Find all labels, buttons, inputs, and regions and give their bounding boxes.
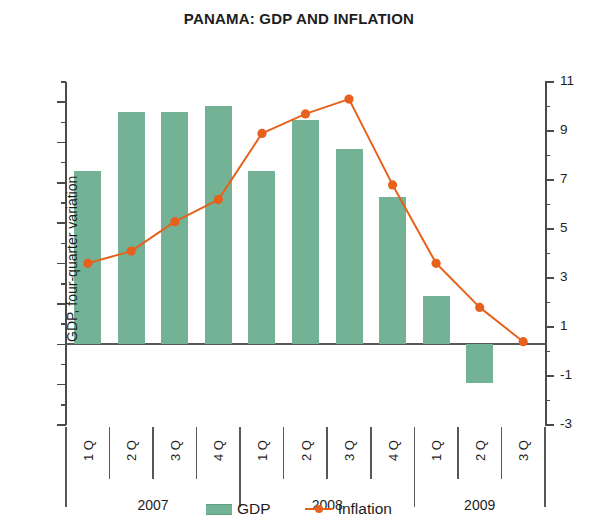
right-tick-label-7: 7 [560,171,568,186]
left-tick--2 [57,384,66,386]
quarter-separator [283,427,285,479]
inflation-point-marker [519,337,528,346]
right-tick-1 [545,326,554,328]
quarter-label: 3 Q [167,435,182,467]
right-tick-7 [545,179,554,181]
chart-title: PANAMA: GDP AND INFLATION [0,10,598,27]
inflation-point-marker [344,95,353,104]
year-separator [239,427,241,507]
quarter-separator [109,427,111,479]
line-marker-swatch-icon [305,504,333,515]
right-tick-label--1: -1 [560,367,572,382]
right-tick-2 [545,302,550,304]
right-tick-label-9: 9 [560,122,568,137]
quarter-label: 4 Q [385,435,400,467]
quarter-label: 4 Q [211,435,226,467]
left-tick-0 [57,344,66,346]
inflation-line-series [66,82,545,425]
right-tick-4 [545,253,550,255]
quarter-separator [501,427,503,479]
chart-root: PANAMA: GDP AND INFLATION -4-2024681012 … [0,0,598,530]
legend-label-gdp: GDP [237,500,271,518]
right-tick-5 [545,228,554,230]
right-tick-0 [545,351,550,353]
right-tick-6 [545,204,550,206]
inflation-point-marker [170,217,179,226]
right-tick-label--3: -3 [560,416,572,431]
quarter-label: 3 Q [342,435,357,467]
left-tick-10 [57,142,66,144]
year-separator [65,427,67,507]
inflation-point-marker [301,109,310,118]
inflation-point-marker [83,259,92,268]
quarter-label: 3 Q [516,435,531,467]
quarter-label: 1 Q [429,435,444,467]
quarter-separator [196,427,198,479]
plot-area: -4-2024681012 -3-11357911 GDP, four-quar… [66,82,545,425]
inflation-point-marker [388,180,397,189]
right-tick--3 [545,424,554,426]
right-tick-11 [545,81,554,83]
right-tick-10 [545,106,550,108]
left-axis-title: GDP, four-quarter variation [64,176,80,342]
quarter-separator [370,427,372,479]
legend-item-gdp: GDP [206,500,271,518]
inflation-point-marker [432,259,441,268]
right-tick-label-3: 3 [560,269,568,284]
inflation-line-path [88,99,523,342]
right-tick-label-5: 5 [560,220,568,235]
right-tick-9 [545,130,554,132]
inflation-point-marker [257,129,266,138]
legend-item-inflation: Inflation [305,500,392,518]
year-separator [414,427,416,507]
quarter-separator [457,427,459,479]
quarter-label: 2 Q [124,435,139,467]
right-tick-label-1: 1 [560,318,568,333]
quarter-separator [326,427,328,479]
right-tick-label-11: 11 [560,73,574,88]
right-tick--2 [545,400,550,402]
right-tick-8 [545,155,550,157]
inflation-point-marker [214,195,223,204]
inflation-point-marker [475,303,484,312]
quarter-label: 2 Q [298,435,313,467]
year-separator [544,427,546,507]
bar-swatch-icon [206,504,232,515]
legend-marker-dot [315,505,323,513]
quarter-label: 2 Q [472,435,487,467]
legend-label-inflation: Inflation [338,500,392,518]
quarter-separator [152,427,154,479]
chart-legend: GDP Inflation [0,500,598,518]
right-tick-3 [545,277,554,279]
quarter-label: 1 Q [80,435,95,467]
left-tick-12 [57,101,66,103]
inflation-point-marker [127,247,136,256]
right-tick--1 [545,375,554,377]
left-tick--4 [57,424,66,426]
quarter-label: 1 Q [254,435,269,467]
